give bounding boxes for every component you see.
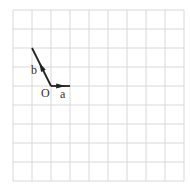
grid xyxy=(13,10,184,181)
vector-b-label: b xyxy=(31,63,37,77)
vector-diagram: b O a xyxy=(0,0,190,188)
vector-a-label: a xyxy=(60,87,66,101)
origin-label: O xyxy=(41,86,50,100)
